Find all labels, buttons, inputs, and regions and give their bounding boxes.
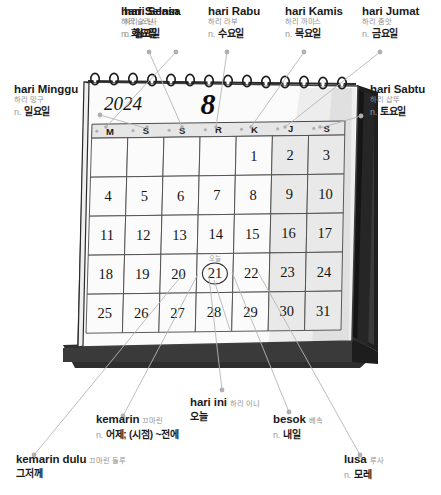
calendar-empty-cell: [127, 137, 164, 176]
definition-korean: 내일: [283, 429, 301, 440]
definition-korean: 토요일: [380, 106, 406, 117]
term-text: kemarin: [96, 413, 139, 425]
part-of-speech: n.: [96, 430, 103, 440]
definition-korean: 어제; (시점) ~전에: [106, 429, 179, 440]
term-text: hari Minggu: [14, 83, 78, 96]
definition-text: n. 목요일: [285, 28, 343, 39]
calendar-day-number: 20: [171, 266, 186, 282]
term-text: hari Rabu: [208, 5, 260, 18]
part-of-speech: n.: [208, 29, 215, 39]
annotation-hari-ini: hari ini하리 이니 오늘: [190, 392, 260, 422]
annotation-top-1: hari Selasa 하리 슬라사 n. 화요일: [121, 5, 181, 39]
calendar-day-number: 1: [250, 148, 257, 164]
calendar-day-number: 23: [280, 264, 295, 280]
annotation-lusa: lusa루사 n. 모레: [344, 449, 384, 480]
part-of-speech: n.: [344, 470, 351, 480]
weekday-header-5: J: [288, 123, 293, 134]
romanization-text: 하리 이니: [230, 399, 260, 408]
calendar-day-number: 7: [213, 187, 220, 203]
term-line: kemarin dulu끄마린 둘루: [16, 449, 126, 467]
calendar-month: 8: [201, 87, 216, 120]
weekday-header-0: M: [106, 126, 114, 137]
calendar-empty-cell: [199, 136, 236, 175]
weekday-header-dot-4: [240, 128, 243, 131]
weekday-header-3: R: [215, 124, 222, 135]
weekday-header-dot-5: [276, 127, 279, 130]
today-marker-label: 오늘: [209, 255, 221, 262]
definition-text: n. 일요일: [14, 106, 78, 117]
calendar-day-number: 2: [286, 147, 293, 163]
calendar-day-number: 19: [135, 266, 150, 282]
romanization-text: 끄마린 둘루: [89, 456, 126, 465]
definition-text: n. 모레: [344, 469, 384, 480]
calendar-day-number: 24: [317, 264, 332, 280]
annotation-besok: besok베속 n. 내일: [273, 409, 323, 440]
definition-korean: 화요일: [131, 28, 157, 39]
calendar-day-number: 8: [249, 187, 256, 203]
definition-text: n. 내일: [273, 429, 323, 440]
definition-text: n. 수요일: [208, 28, 260, 39]
romanization-text: 끄마린: [142, 416, 163, 425]
calendar-day-number: 6: [177, 188, 184, 204]
part-of-speech: n.: [273, 430, 280, 440]
weekday-header-dot-3: [204, 128, 207, 131]
definition-korean: 그저께: [16, 468, 126, 479]
romanization-text: 하리 슬라사: [121, 18, 181, 26]
calendar-day-number: 5: [141, 188, 148, 204]
calendar-grid: MSSRKJS123456789101112131415161718192021…: [86, 121, 345, 333]
term-text: hari Kamis: [285, 5, 343, 18]
term-text: hari Sabtu: [370, 83, 425, 96]
calendar-day-number: 27: [170, 305, 185, 321]
annotation-kemarin-dulu: kemarin dulu끄마린 둘루 그저께: [16, 449, 126, 479]
part-of-speech: n.: [121, 29, 128, 39]
weekday-header-dot-1: [131, 129, 134, 132]
romanization-text: 하리 까미스: [285, 18, 343, 26]
vocabulary-diagram: 2024 8 MSSRKJS12345678910111213141516171…: [0, 0, 441, 495]
calendar-day-number: 14: [209, 226, 224, 242]
calendar-day-number: 13: [172, 227, 187, 243]
annotation-hari-minggu: hari Minggu 하리 밍구 n. 일요일: [14, 83, 78, 117]
calendar-empty-cell: [163, 137, 200, 176]
part-of-speech: n.: [14, 107, 21, 117]
romanization-text: 하리 밍구: [14, 96, 78, 104]
annotation-kemarin: kemarin끄마린 n. 어제; (시점) ~전에: [96, 409, 179, 440]
romanization-text: 루사: [370, 456, 384, 465]
definition-korean: 일요일: [24, 106, 50, 117]
weekday-header-dot-2: [168, 129, 171, 132]
weekday-header-4: K: [251, 124, 258, 135]
romanization-text: 베속: [309, 416, 323, 425]
calendar-day-number: 16: [281, 225, 296, 241]
calendar-day-number: 12: [136, 227, 151, 243]
calendar-day-number: 26: [134, 305, 149, 321]
weekday-header-dot-6: [312, 127, 315, 130]
definition-korean: 모레: [354, 469, 372, 480]
term-text: besok: [273, 413, 306, 425]
part-of-speech: n.: [285, 29, 292, 39]
annotation-top-3: hari Kamis 하리 까미스 n. 목요일: [285, 5, 343, 39]
calendar-day-number: 3: [323, 147, 330, 163]
part-of-speech: n.: [362, 29, 369, 39]
calendar-day-number: 18: [99, 266, 114, 282]
calendar-day-number: 22: [244, 265, 259, 281]
annotation-top-2: hari Rabu 하리 라부 n. 수요일: [208, 5, 260, 39]
calendar-day-number: 29: [243, 304, 258, 320]
romanization-text: 하리 줌앗: [362, 18, 419, 26]
calendar-day-number: 25: [98, 305, 113, 321]
term-text: hari Selasa: [121, 5, 181, 18]
romanization-text: 하리 삽뚜: [370, 96, 425, 104]
definition-korean: 오늘: [190, 411, 260, 422]
weekday-header-2: S: [179, 125, 185, 136]
calendar-empty-cell: [90, 138, 127, 177]
part-of-speech: n.: [370, 107, 377, 117]
definition-text: n. 화요일: [121, 28, 181, 39]
weekday-header-dot-0: [95, 130, 98, 133]
term-line: hari ini하리 이니: [190, 392, 260, 410]
definition-korean: 금요일: [372, 28, 398, 39]
definition-korean: 목요일: [295, 28, 321, 39]
definition-text: n. 금요일: [362, 28, 419, 39]
term-line: besok베속: [273, 409, 323, 427]
term-text: lusa: [344, 453, 367, 465]
term-line: kemarin끄마린: [96, 409, 179, 427]
term-text: hari ini: [190, 396, 227, 408]
calendar-day-number: 9: [286, 186, 293, 202]
